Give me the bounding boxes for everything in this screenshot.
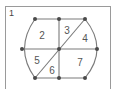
point-top-right xyxy=(83,17,87,21)
point-bottom-left xyxy=(33,76,37,80)
point-bottom-right xyxy=(83,76,87,80)
point-bottom-mid xyxy=(57,76,61,80)
point-mid-left xyxy=(20,47,24,51)
partitioned-circle-diagram xyxy=(0,0,116,89)
region-label-6: 6 xyxy=(49,66,55,76)
region-label-2: 2 xyxy=(39,31,45,41)
point-mid-right xyxy=(95,47,99,51)
point-top-left xyxy=(33,17,37,21)
region-label-5: 5 xyxy=(34,56,40,66)
point-top-mid xyxy=(57,17,61,21)
region-label-7: 7 xyxy=(77,58,83,68)
region-label-4: 4 xyxy=(82,34,88,44)
region-label-3: 3 xyxy=(64,26,70,36)
point-center xyxy=(57,47,61,51)
